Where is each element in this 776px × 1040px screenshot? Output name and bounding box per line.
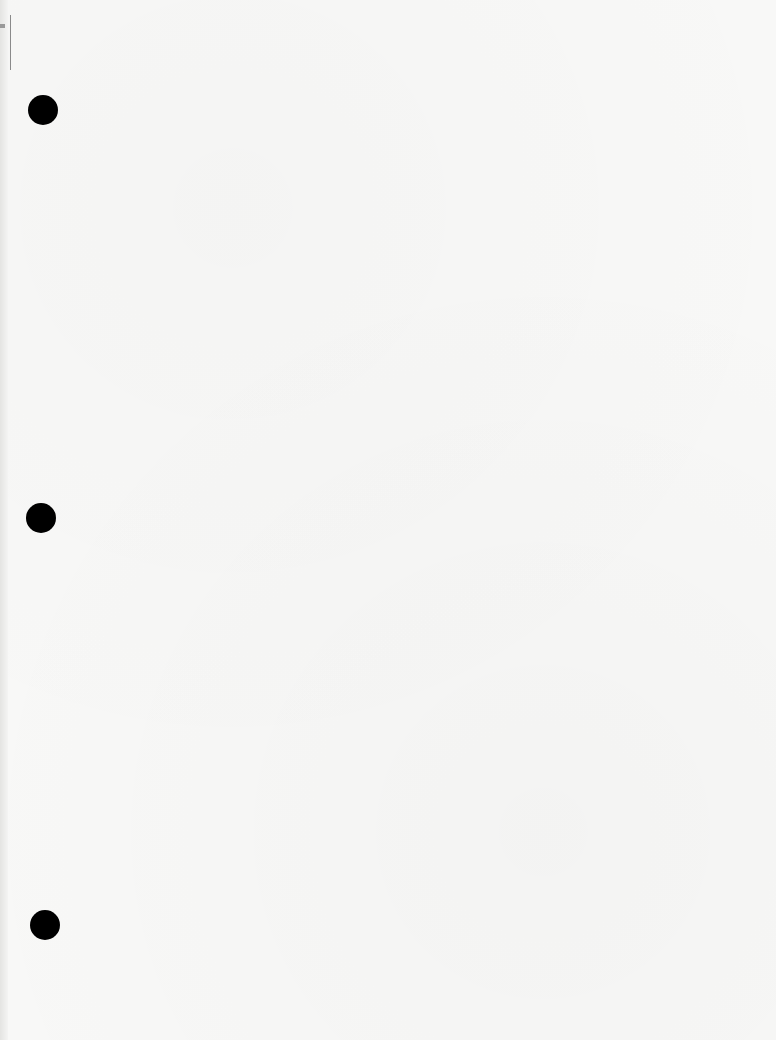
punch-hole-middle: [26, 503, 56, 533]
margin-line: [10, 15, 11, 70]
page-left-edge-shadow: [0, 0, 8, 1040]
punch-hole-top: [28, 95, 58, 125]
scan-corner-mark: [0, 24, 5, 28]
punch-hole-bottom: [30, 910, 60, 940]
blank-page: [0, 0, 776, 1040]
